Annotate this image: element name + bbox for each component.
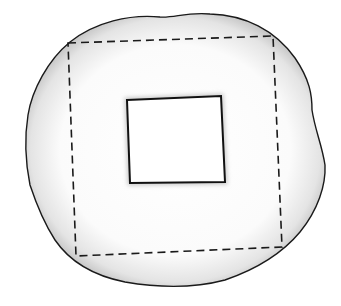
- inner-square: [127, 96, 225, 183]
- diagram-svg: [0, 0, 341, 306]
- diagram-canvas: [0, 0, 341, 306]
